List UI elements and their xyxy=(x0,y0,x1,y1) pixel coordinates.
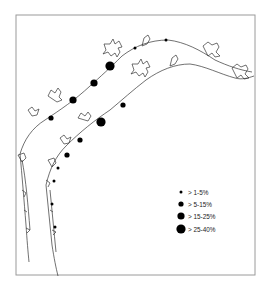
data-point xyxy=(90,79,97,86)
data-point xyxy=(120,102,125,107)
data-point xyxy=(69,96,76,103)
legend-symbol-1-5 xyxy=(180,191,183,194)
data-point xyxy=(57,167,60,170)
legend-label: > 5-15% xyxy=(188,201,212,208)
data-point xyxy=(134,47,137,50)
data-point xyxy=(96,117,105,126)
legend-symbol-25-40 xyxy=(176,224,185,233)
legend-symbol-5-15 xyxy=(178,201,183,206)
data-point xyxy=(77,137,82,142)
legend-label: > 1-5% xyxy=(188,189,209,196)
data-point xyxy=(51,203,54,206)
legend-label: > 25-40% xyxy=(188,226,216,233)
data-point xyxy=(53,180,56,183)
coastal-map: > 1-5% > 5-15% > 15-25% > 25-40% xyxy=(0,0,269,289)
data-point xyxy=(54,226,57,229)
data-point xyxy=(64,152,69,157)
data-point xyxy=(165,39,168,42)
legend-label: > 15-25% xyxy=(188,213,216,220)
legend-symbol-15-25 xyxy=(177,212,184,219)
data-point xyxy=(48,115,53,120)
data-point xyxy=(105,61,114,70)
map-frame xyxy=(16,15,255,275)
